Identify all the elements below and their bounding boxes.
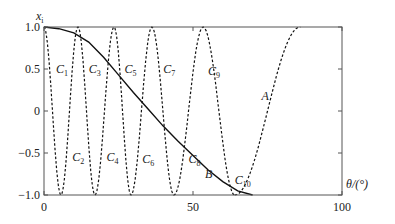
curve-label: B <box>205 167 213 181</box>
x-tick-label: 0 <box>41 200 47 214</box>
curve-label: C7 <box>163 62 175 78</box>
curve-label: C1 <box>56 62 68 78</box>
curve-label: C6 <box>142 152 154 168</box>
axis-ticks: 1.00.50−0.5−1.0050100 <box>18 20 351 214</box>
y-axis-label: xi <box>35 9 44 25</box>
curve-label: C2 <box>72 150 84 166</box>
curve-label: A <box>261 89 270 103</box>
curve-label: C4 <box>107 150 119 166</box>
y-tick-label: 0.5 <box>25 62 40 76</box>
curve-label: C5 <box>124 62 136 78</box>
chart: 1.00.50−0.5−1.0050100 C1C2C3C4C5C6C7C8C9… <box>0 0 395 224</box>
curve-label: C10 <box>235 173 251 189</box>
y-tick-label: −0.5 <box>18 146 40 160</box>
curve-label: C8 <box>189 152 201 168</box>
x-tick-label: 100 <box>333 200 351 214</box>
plot-curves <box>44 27 300 195</box>
curve-label: C3 <box>89 62 101 78</box>
y-tick-label: −1.0 <box>18 188 40 202</box>
x-tick-label: 50 <box>187 200 199 214</box>
y-tick-label: 0 <box>34 104 40 118</box>
plot-frame <box>44 27 342 195</box>
curve-b <box>44 27 253 195</box>
x-axis-label: θ/(°) <box>346 177 368 191</box>
curve-a <box>235 27 301 195</box>
curve-label: C9 <box>208 64 220 80</box>
